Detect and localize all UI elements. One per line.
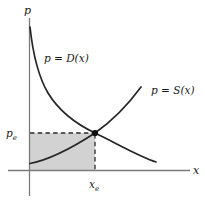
equilibrium-point <box>92 130 98 136</box>
equilibrium-price-label: pe <box>6 127 17 142</box>
equilibrium-quantity-subscript: e <box>95 185 99 193</box>
p-axis-label: p <box>24 4 31 17</box>
x-axis-label: x <box>193 164 200 177</box>
equilibrium-quantity-label: xe <box>89 178 99 193</box>
supply-demand-figure: p x p = D(x) p = S(x) pe xe <box>0 0 205 205</box>
demand-curve-label: p = D(x) <box>44 52 89 64</box>
supply-curve-label: p = S(x) <box>151 84 195 96</box>
equilibrium-price-subscript: e <box>13 134 17 142</box>
